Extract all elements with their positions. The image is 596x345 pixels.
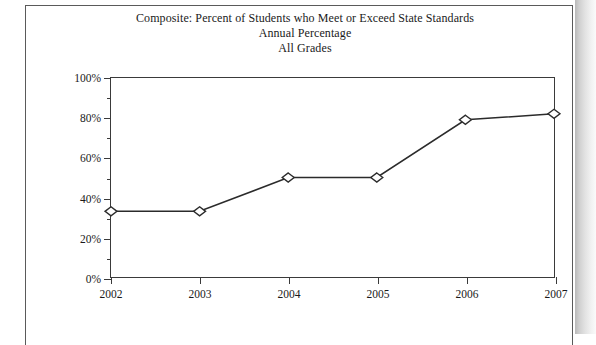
x-axis-tick [289, 277, 290, 284]
y-axis-label: 20% [80, 233, 101, 245]
y-axis-minor-tick [107, 219, 111, 220]
data-point-marker [548, 109, 560, 118]
data-point-marker [282, 173, 294, 182]
y-axis-label: 60% [80, 152, 101, 164]
y-axis-tick [104, 239, 111, 240]
plot-area: 0%20%40%60%80%100%2002200320042005200620… [110, 77, 555, 278]
y-axis-minor-tick [107, 138, 111, 139]
x-axis-tick [556, 277, 557, 284]
x-axis-tick [111, 277, 112, 284]
y-axis-tick [104, 158, 111, 159]
y-axis-label: 80% [80, 112, 101, 124]
chart-title-line2: Annual Percentage [60, 26, 550, 41]
y-axis-tick [104, 78, 111, 79]
y-axis-label: 40% [80, 193, 101, 205]
chart-title-line1: Composite: Percent of Students who Meet … [60, 11, 550, 26]
data-series-line [111, 114, 554, 212]
x-axis-tick [467, 277, 468, 284]
data-point-marker [194, 207, 206, 216]
y-axis-tick [104, 279, 111, 280]
y-axis-tick [104, 199, 111, 200]
chart-title-line3: All Grades [60, 41, 550, 56]
x-axis-label: 2005 [367, 288, 390, 300]
y-axis-minor-tick [107, 179, 111, 180]
x-axis-label: 2007 [545, 288, 568, 300]
y-axis-tick [104, 118, 111, 119]
y-axis-label: 100% [74, 72, 101, 84]
x-axis-label: 2003 [189, 288, 212, 300]
x-axis-tick [378, 277, 379, 284]
y-axis-minor-tick [107, 98, 111, 99]
x-axis-label: 2002 [100, 288, 123, 300]
x-axis-label: 2004 [278, 288, 301, 300]
x-axis-label: 2006 [456, 288, 479, 300]
chart-title-block: Composite: Percent of Students who Meet … [60, 11, 550, 56]
series-line-chart [111, 78, 554, 277]
y-axis-label: 0% [86, 273, 101, 285]
y-axis-minor-tick [107, 259, 111, 260]
data-point-marker [105, 207, 117, 216]
x-axis-tick [200, 277, 201, 284]
